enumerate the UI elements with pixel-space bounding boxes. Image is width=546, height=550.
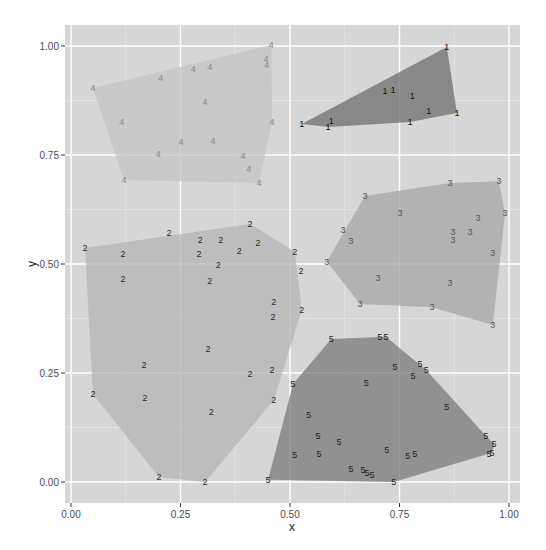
scatter-chart: 1111111111222222222222222222222222222333… (0, 0, 546, 550)
point-label-cluster-5: 5 (393, 362, 398, 372)
point-label-cluster-4: 4 (90, 83, 95, 93)
point-label-cluster-4: 4 (210, 136, 215, 146)
x-axis-title: x (289, 520, 295, 534)
point-label-cluster-3: 3 (490, 248, 495, 258)
point-label-cluster-3: 3 (490, 320, 495, 330)
point-label-cluster-4: 4 (241, 151, 246, 161)
point-label-cluster-4: 4 (269, 40, 274, 50)
point-label-cluster-4: 4 (156, 149, 161, 159)
y-tick-label: 0.75 (40, 150, 60, 161)
point-label-cluster-5: 5 (411, 371, 416, 381)
point-label-cluster-2: 2 (206, 344, 211, 354)
y-tick-label: 0.25 (40, 368, 60, 379)
point-label-cluster-2: 2 (167, 228, 172, 238)
point-label-cluster-5: 5 (337, 437, 342, 447)
point-label-cluster-2: 2 (202, 477, 207, 487)
point-label-cluster-3: 3 (496, 176, 501, 186)
point-label-cluster-1: 1 (382, 86, 387, 96)
point-label-cluster-3: 3 (450, 235, 455, 245)
point-label-cluster-2: 2 (269, 365, 274, 375)
x-tick-label: 0.25 (171, 509, 191, 520)
point-label-cluster-2: 2 (270, 312, 275, 322)
point-label-cluster-5: 5 (291, 379, 296, 389)
point-label-cluster-3: 3 (503, 208, 508, 218)
point-label-cluster-5: 5 (391, 477, 396, 487)
point-label-cluster-3: 3 (362, 191, 367, 201)
point-label-cluster-3: 3 (340, 225, 345, 235)
point-label-cluster-4: 4 (256, 178, 261, 188)
point-label-cluster-5: 5 (483, 431, 488, 441)
point-label-cluster-2: 2 (142, 393, 147, 403)
point-label-cluster-4: 4 (202, 97, 207, 107)
point-label-cluster-2: 2 (198, 235, 203, 245)
point-label-cluster-2: 2 (121, 274, 126, 284)
point-label-cluster-3: 3 (447, 278, 452, 288)
point-label-cluster-2: 2 (237, 246, 242, 256)
point-label-cluster-3: 3 (348, 236, 353, 246)
point-label-cluster-5: 5 (384, 445, 389, 455)
point-label-cluster-2: 2 (216, 260, 221, 270)
point-label-cluster-5: 5 (369, 470, 374, 480)
point-label-cluster-3: 3 (467, 227, 472, 237)
point-label-cluster-1: 1 (444, 42, 449, 52)
point-label-cluster-5: 5 (316, 449, 321, 459)
point-label-cluster-5: 5 (418, 359, 423, 369)
point-label-cluster-1: 1 (410, 91, 415, 101)
point-label-cluster-2: 2 (255, 238, 260, 248)
point-label-cluster-5: 5 (329, 334, 334, 344)
point-label-cluster-3: 3 (475, 213, 480, 223)
point-label-cluster-4: 4 (158, 73, 163, 83)
point-label-cluster-2: 2 (271, 297, 276, 307)
point-label-cluster-5: 5 (377, 332, 382, 342)
point-label-cluster-1: 1 (454, 108, 459, 118)
point-label-cluster-4: 4 (191, 64, 196, 74)
point-label-cluster-2: 2 (82, 243, 87, 253)
point-label-cluster-5: 5 (412, 449, 417, 459)
point-label-cluster-5: 5 (364, 378, 369, 388)
point-label-cluster-2: 2 (196, 249, 201, 259)
point-label-cluster-5: 5 (489, 448, 494, 458)
point-label-cluster-3: 3 (429, 302, 434, 312)
point-label-cluster-3: 3 (375, 273, 380, 283)
point-label-cluster-4: 4 (121, 175, 126, 185)
point-label-cluster-2: 2 (248, 369, 253, 379)
y-tick-label: 1.00 (40, 41, 60, 52)
point-label-cluster-5: 5 (444, 402, 449, 412)
point-label-cluster-5: 5 (348, 464, 353, 474)
point-label-cluster-5: 5 (266, 475, 271, 485)
point-label-cluster-3: 3 (358, 299, 363, 309)
point-label-cluster-2: 2 (299, 305, 304, 315)
point-label-cluster-1: 1 (407, 117, 412, 127)
point-label-cluster-3: 3 (447, 178, 452, 188)
x-tick-label: 0.75 (390, 509, 410, 520)
point-label-cluster-2: 2 (121, 249, 126, 259)
point-label-cluster-2: 2 (207, 276, 212, 286)
point-label-cluster-2: 2 (298, 266, 303, 276)
point-label-cluster-2: 2 (292, 247, 297, 257)
point-label-cluster-4: 4 (264, 60, 269, 70)
point-label-cluster-5: 5 (292, 450, 297, 460)
point-label-cluster-1: 1 (426, 106, 431, 116)
point-label-cluster-4: 4 (207, 62, 212, 72)
x-tick-label: 0.50 (280, 509, 300, 520)
y-tick-label: 0.00 (40, 477, 60, 488)
point-label-cluster-2: 2 (156, 472, 161, 482)
point-label-cluster-1: 1 (390, 85, 395, 95)
point-label-cluster-3: 3 (397, 208, 402, 218)
point-label-cluster-4: 4 (178, 137, 183, 147)
point-label-cluster-2: 2 (142, 360, 147, 370)
point-label-cluster-1: 1 (299, 119, 304, 129)
point-label-cluster-4: 4 (119, 117, 124, 127)
point-label-cluster-5: 5 (383, 332, 388, 342)
point-label-cluster-2: 2 (248, 219, 253, 229)
point-label-cluster-4: 4 (269, 117, 274, 127)
x-tick-label: 0.00 (61, 509, 81, 520)
point-label-cluster-1: 1 (326, 122, 331, 132)
y-axis-title: y (25, 261, 39, 267)
point-label-cluster-4: 4 (246, 164, 251, 174)
point-label-cluster-5: 5 (306, 410, 311, 420)
point-label-cluster-5: 5 (315, 431, 320, 441)
point-label-cluster-3: 3 (324, 257, 329, 267)
point-label-cluster-2: 2 (90, 389, 95, 399)
x-tick-label: 1.00 (499, 509, 519, 520)
